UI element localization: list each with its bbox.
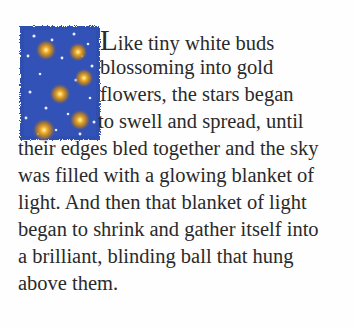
passage-line: flowers, the stars began [100, 81, 294, 108]
passage-line: a brilliant, blinding ball that hung [18, 243, 294, 270]
passage-line: light. And then that blanket of light [18, 189, 307, 216]
passage-line: to swell and spread, until [98, 108, 304, 135]
passage-line: blossoming into gold [100, 54, 273, 81]
drop-cap: L [100, 24, 118, 56]
passage-line: above them. [18, 270, 118, 297]
starry-sky-illustration [16, 22, 104, 144]
storybook-page: Like tiny white buds blossoming into gol… [0, 0, 354, 328]
passage-line: began to shrink and gather itself into [18, 216, 319, 243]
passage-line: Like tiny white buds [100, 26, 274, 57]
passage-line: their edges bled together and the sky [18, 135, 319, 162]
passage-line: was filled with a glowing blanket of [18, 162, 314, 189]
